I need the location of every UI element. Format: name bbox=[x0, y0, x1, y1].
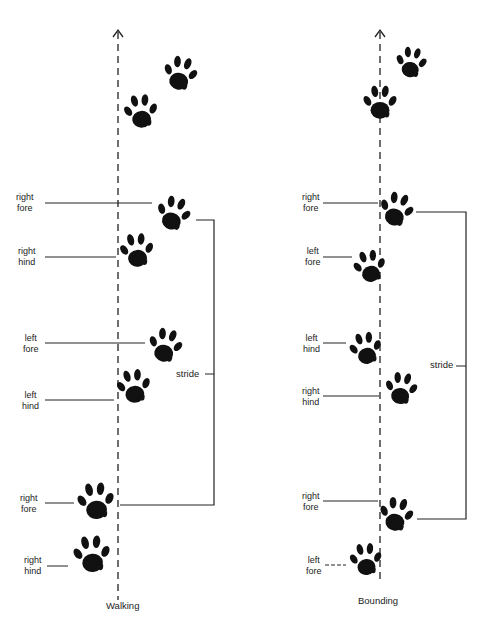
bounding-stride-label: stride bbox=[430, 359, 453, 370]
bounding-label-right-fore-2: right fore bbox=[302, 491, 320, 512]
bounding-label-right-fore: right fore bbox=[302, 192, 320, 213]
bounding-label-left-fore-2: left fore bbox=[306, 555, 322, 576]
walking-label-left-hind: left hind bbox=[22, 390, 39, 411]
walking-label-left-fore: left fore bbox=[23, 333, 39, 354]
walking-label-right-hind-2: right hind bbox=[24, 555, 42, 576]
walking-label-right-fore: right fore bbox=[16, 192, 34, 213]
bounding-caption: Bounding bbox=[358, 595, 398, 606]
walking-label-right-fore-2: right fore bbox=[20, 493, 38, 514]
track-diagram bbox=[0, 0, 488, 629]
bounding-label-left-hind: left hind bbox=[303, 333, 320, 354]
bounding-paw-prints bbox=[346, 45, 430, 577]
walking-stride-label: stride bbox=[176, 368, 199, 379]
walking-label-right-hind: right hind bbox=[18, 246, 36, 267]
walking-paw-prints bbox=[70, 53, 201, 574]
bounding-label-right-hind: right hind bbox=[302, 386, 320, 407]
bounding-label-left-fore: left fore bbox=[305, 246, 321, 267]
walking-caption: Walking bbox=[106, 600, 139, 611]
